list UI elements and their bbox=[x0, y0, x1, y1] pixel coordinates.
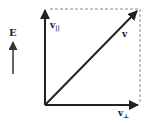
dashed-guides bbox=[50, 9, 140, 104]
v-perpendicular-label: v⊥ bbox=[117, 108, 129, 119]
v-parallel-label: v|| bbox=[49, 20, 60, 32]
vector-diagram: E v|| v v⊥ bbox=[0, 0, 148, 124]
electric-field-label: E bbox=[9, 27, 17, 38]
v-label: v bbox=[121, 29, 128, 39]
